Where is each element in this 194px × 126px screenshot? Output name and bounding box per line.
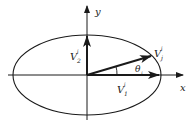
ellipse-vector-diagram: y x V 2 i V j i θ j V 1 i [0, 0, 194, 126]
x-axis-label: x [180, 82, 186, 93]
svg-text:i: i [161, 45, 163, 51]
angle-arc [116, 67, 117, 76]
svg-text:j: j [140, 70, 143, 77]
svg-text:2: 2 [76, 57, 81, 64]
y-axis-label: y [94, 6, 101, 17]
svg-text:i: i [77, 48, 79, 54]
svg-text:1: 1 [124, 90, 128, 97]
v2-label: V 2 i [70, 48, 81, 64]
v1-label: V 1 i [117, 81, 128, 97]
svg-text:i: i [124, 81, 126, 87]
